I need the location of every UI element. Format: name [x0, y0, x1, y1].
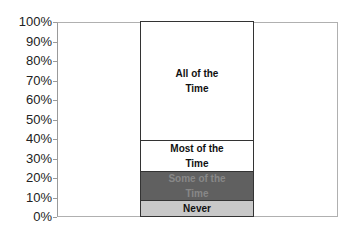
y-tick-label: 40%	[0, 132, 52, 146]
y-tick-label: 20%	[0, 171, 52, 185]
segment-label: Some of the	[168, 171, 225, 186]
y-tick-mark	[53, 217, 57, 218]
y-tick-label: 60%	[0, 93, 52, 107]
stacked-bar-chart: 0%10%20%30%40%50%60%70%80%90%100% NeverS…	[0, 0, 354, 230]
y-tick-label: 10%	[0, 191, 52, 205]
bar-segment-all: All of theTime	[140, 21, 254, 141]
segment-label: Time	[176, 81, 219, 96]
y-tick-label: 70%	[0, 74, 52, 88]
y-tick-label: 90%	[0, 35, 52, 49]
segment-label: Time	[170, 156, 223, 171]
bar-segment-some: Some of theTime	[140, 171, 254, 201]
bar-segment-never: Never	[140, 200, 254, 217]
y-tick-label: 30%	[0, 152, 52, 166]
y-tick-label: 50%	[0, 113, 52, 127]
y-tick-label: 0%	[0, 210, 52, 224]
segment-label: All of the	[176, 66, 219, 81]
segment-label: Never	[183, 201, 211, 216]
stacked-bar: NeverSome of theTimeMost of theTimeAll o…	[140, 22, 254, 217]
bar-segment-most: Most of theTime	[140, 140, 254, 172]
segment-label: Time	[168, 186, 225, 201]
y-tick-label: 100%	[0, 15, 52, 29]
segment-label: Most of the	[170, 141, 223, 156]
y-tick-label: 80%	[0, 54, 52, 68]
